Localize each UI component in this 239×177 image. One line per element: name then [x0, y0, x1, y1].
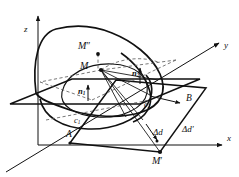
c2-to-B-arrow [150, 96, 180, 103]
label-c2: c2 [144, 100, 150, 109]
label-n1: n1 [78, 87, 85, 96]
label-delta-d-prime: Δd′ [182, 125, 194, 134]
label-M-double-prime: M″ [78, 41, 90, 51]
label-A: A [66, 130, 72, 140]
label-n2: n2 [132, 69, 139, 78]
M-prime-mark: ′ [160, 155, 162, 166]
label-delta-d: Δd [153, 128, 163, 137]
dot-M-prime [158, 150, 162, 154]
dot-M-double-prime [96, 52, 100, 56]
label-M-prime: M′ [152, 156, 162, 166]
dot-A [68, 141, 71, 144]
c2-subscript: 2 [148, 103, 151, 109]
M-double-prime-mark: ″ [86, 40, 90, 51]
x-axis-label: x [227, 134, 231, 143]
n1-subscript: 1 [83, 90, 86, 96]
c1-subscript: 1 [78, 119, 81, 125]
z-axis-label: z [24, 25, 28, 34]
label-B: B [186, 94, 192, 104]
figure-canvas [0, 0, 239, 177]
dot-M [99, 68, 103, 72]
y-axis-label: y [224, 41, 228, 50]
n2-subscript: 2 [137, 72, 140, 78]
label-c1: c1 [74, 116, 80, 125]
label-M: M [80, 61, 88, 71]
geometry-figure: z y x M″ M M′ A B c1 c2 n1 n2 Δd Δd′ [0, 0, 239, 177]
dot-delta-d [156, 140, 159, 143]
